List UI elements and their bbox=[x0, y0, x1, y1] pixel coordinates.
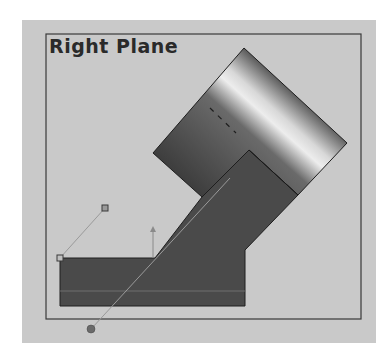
sketch-handle-top[interactable] bbox=[102, 205, 108, 211]
sketch-handle-corner[interactable] bbox=[57, 255, 63, 261]
sketch-line bbox=[60, 208, 105, 258]
view-title: Right Plane bbox=[49, 35, 178, 57]
direction-arrow-head[interactable] bbox=[150, 226, 156, 232]
pivot-point[interactable] bbox=[87, 325, 95, 333]
